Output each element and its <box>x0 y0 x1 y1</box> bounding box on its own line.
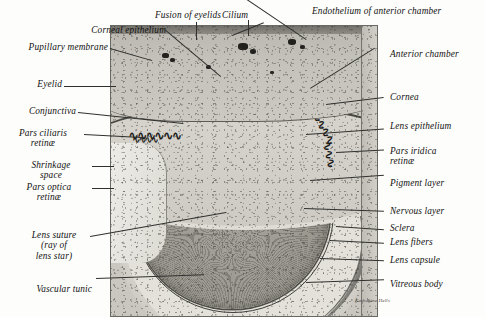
label-lens-fibers: Lens fibers <box>390 237 462 247</box>
cilium-fleck <box>300 45 305 49</box>
histology-specimen: ∿∿∿∿∿∿ ∿∿∿∿ ∿∿∿∿ ∿∿∿ <box>110 25 378 317</box>
leader-eyelid <box>64 86 116 87</box>
label-lens-suture: Lens suture (ray of lens star) <box>16 230 92 261</box>
leader-fusion-of-eyelids <box>196 22 197 40</box>
label-cilium: Cilium <box>222 10 282 20</box>
label-vitreous-body: Vitreous body <box>390 279 474 289</box>
label-anterior-chamber: Anterior chamber <box>390 49 485 59</box>
label-corneal-epithelium: Corneal epithelium <box>44 25 166 35</box>
leader-pars-optica-retinae <box>92 188 114 189</box>
label-pars-optica-retinae: Pars optica retinæ <box>8 182 90 203</box>
anatomical-figure: ∿∿∿∿∿∿ ∿∿∿∿ ∿∿∿∿ ∿∿∿ <box>0 0 485 317</box>
specimen-right-margin <box>361 25 378 317</box>
label-lens-capsule: Lens capsule <box>390 255 470 265</box>
label-shrinkage-space: Shrinkage space <box>12 160 90 181</box>
label-pars-iridica-retinae: Pars iridica retinæ <box>390 146 468 167</box>
tissue-fleck <box>270 71 274 74</box>
cilium-fleck <box>288 39 296 45</box>
label-sclera: Sclera <box>390 223 450 233</box>
label-vascular-tunic: Vascular tunic <box>0 284 92 294</box>
cilium-fleck <box>170 58 175 62</box>
label-eyelid: Eyelid <box>0 79 62 89</box>
label-nervous-layer: Nervous layer <box>390 206 474 216</box>
label-pigment-layer: Pigment layer <box>390 178 474 188</box>
artist-signature: Katharine Hells <box>355 298 390 303</box>
label-pars-ciliaris-retinae: Pars ciliaris retinæ <box>4 128 82 149</box>
label-lens-epithelium: Lens epithelium <box>390 121 482 131</box>
cilium-fleck <box>162 53 169 58</box>
label-endothelium-of-anterior-chamber: Endothelium of anterior chamber <box>312 6 484 16</box>
eyelid-tissue <box>110 25 378 122</box>
label-cornea: Cornea <box>390 92 450 102</box>
leader-shrinkage-space <box>92 166 114 167</box>
label-conjunctiva: Conjunctiva <box>0 106 76 116</box>
fusion-of-eyelids-fleck <box>238 43 248 50</box>
label-pupillary-membrane: Pupillary membrane <box>0 42 108 52</box>
shrinkage-space-region <box>110 143 167 263</box>
fusion-of-eyelids-fleck <box>250 49 256 54</box>
